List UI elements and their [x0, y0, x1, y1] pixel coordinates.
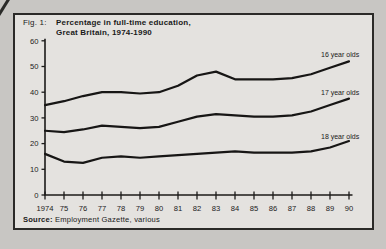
- x-tick-label: 85: [250, 204, 258, 213]
- y-tick-label: 20: [30, 139, 38, 148]
- x-tick-label: 77: [98, 204, 106, 213]
- x-tick-label: 83: [212, 204, 220, 213]
- x-tick-label: 86: [269, 204, 277, 213]
- series-line-17-year-olds: [45, 99, 349, 132]
- x-tick-label: 82: [193, 204, 201, 213]
- x-tick-label: 90: [345, 204, 353, 213]
- chart-canvas: 0102030405060197475767778798081828384858…: [0, 0, 386, 249]
- y-tick-label: 50: [30, 62, 38, 71]
- x-tick-label: 76: [79, 204, 87, 213]
- y-tick-label: 10: [30, 165, 38, 174]
- y-tick-label: 30: [30, 114, 38, 123]
- y-tick-label: 0: [34, 191, 38, 200]
- x-tick-label: 1974: [37, 204, 54, 213]
- x-tick-label: 87: [288, 204, 296, 213]
- x-tick-label: 78: [117, 204, 125, 213]
- series-line-18-year-olds: [45, 141, 349, 163]
- y-tick-label: 60: [30, 37, 38, 46]
- series-label-18-year-olds: 18 year olds: [321, 133, 360, 141]
- y-tick-label: 40: [30, 88, 38, 97]
- x-tick-label: 79: [136, 204, 144, 213]
- scanned-page: Fig. 1: Percentage in full-time educatio…: [0, 0, 386, 249]
- series-line-16-year-olds: [45, 61, 349, 105]
- x-tick-label: 88: [307, 204, 315, 213]
- x-tick-label: 75: [60, 204, 68, 213]
- x-tick-label: 81: [174, 204, 182, 213]
- x-tick-label: 84: [231, 204, 239, 213]
- series-label-17-year-olds: 17 year olds: [321, 89, 360, 97]
- x-tick-label: 80: [155, 204, 163, 213]
- x-tick-label: 89: [326, 204, 334, 213]
- series-label-16-year-olds: 16 year olds: [321, 51, 360, 59]
